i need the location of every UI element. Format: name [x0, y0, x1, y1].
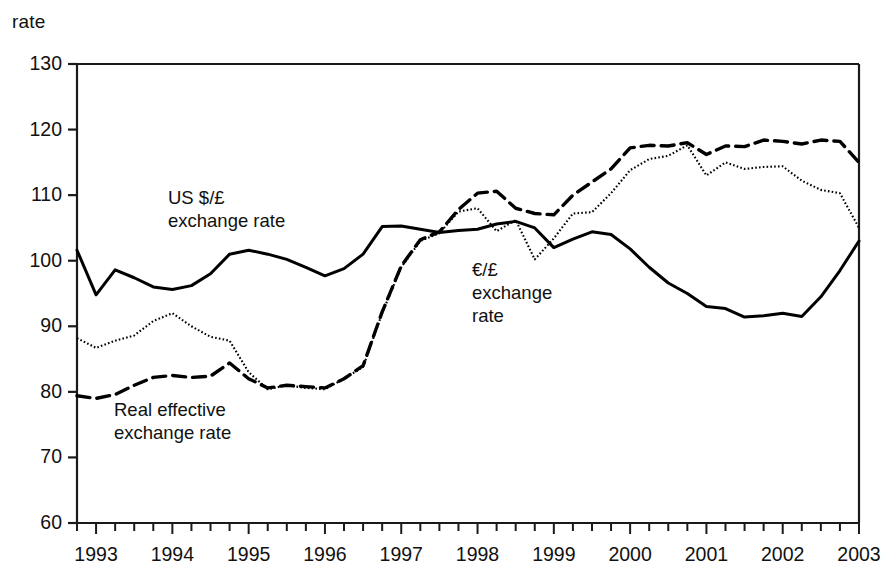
annotation-eur: €/£ exchange rate	[472, 258, 552, 327]
x-axis-tick-label: 1995	[214, 545, 284, 565]
x-axis-tick-label: 1999	[519, 545, 589, 565]
y-axis-unit-label: rate	[12, 11, 46, 33]
x-axis-tick-label: 2002	[748, 545, 818, 565]
exchange-rate-chart-figure: rate 13012011010090807060 19931994199519…	[0, 0, 890, 585]
y-axis-tick-label: 90	[8, 316, 62, 336]
x-axis-tick-label: 1998	[443, 545, 513, 565]
y-axis-tick-label: 110	[8, 185, 62, 205]
y-axis-tick-label: 120	[8, 120, 62, 140]
annotation-reer: Real effective exchange rate	[114, 398, 231, 444]
series-line-reer	[77, 140, 859, 398]
x-axis-tick-label: 2001	[671, 545, 741, 565]
series-line-usd	[77, 221, 859, 317]
y-axis-tick-label: 70	[8, 447, 62, 467]
x-axis-tick-label: 1993	[61, 545, 131, 565]
annotation-usd: US $/£ exchange rate	[168, 186, 285, 232]
x-axis-tick-label: 1997	[366, 545, 436, 565]
y-axis-tick-label: 60	[8, 513, 62, 533]
x-axis-tick-label: 2000	[595, 545, 665, 565]
chart-plot-area	[0, 0, 890, 585]
x-axis-tick-label: 1994	[137, 545, 207, 565]
x-axis-tick-label: 2003	[824, 545, 890, 565]
x-axis-tick-label: 1996	[290, 545, 360, 565]
y-axis-tick-label: 130	[8, 54, 62, 74]
series-line-eur	[77, 145, 859, 389]
y-axis-tick-label: 100	[8, 251, 62, 271]
y-axis-tick-label: 80	[8, 382, 62, 402]
